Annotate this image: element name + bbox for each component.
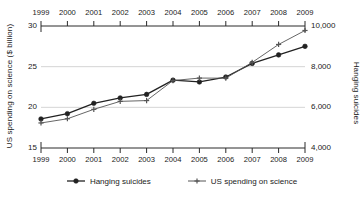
plot-area: [0, 0, 363, 197]
bottom-x-tick-label: 2004: [159, 155, 187, 164]
axis-ticks: [41, 21, 305, 153]
top-x-tick-label: 2003: [133, 8, 161, 17]
legend-item-us-spending-on-science[interactable]: US spending on science: [187, 176, 297, 186]
bottom-x-tick-label: 2008: [265, 155, 293, 164]
left-tick-label: 25: [15, 62, 37, 71]
legend-label: US spending on science: [211, 177, 297, 186]
bottom-x-tick-label: 2001: [80, 155, 108, 164]
bottom-x-tick-label: 2002: [106, 155, 134, 164]
top-x-tick-label: 2000: [53, 8, 81, 17]
series-us-spending-on-science: [38, 28, 307, 126]
bottom-x-tick-label: 2000: [53, 155, 81, 164]
top-x-tick-label: 2005: [185, 8, 213, 17]
top-x-tick-label: 2004: [159, 8, 187, 17]
left-tick-label: 15: [15, 143, 37, 152]
legend-label: Hanging suicides: [90, 177, 151, 186]
top-x-tick-label: 2002: [106, 8, 134, 17]
right-tick-label: 6,000: [311, 102, 345, 111]
top-x-tick-label: 2007: [238, 8, 266, 17]
bottom-x-tick-label: 2009: [291, 155, 319, 164]
chart-figure: US spending on science ($ billion) Hangi…: [0, 0, 363, 197]
bottom-x-tick-label: 2006: [212, 155, 240, 164]
top-x-tick-label: 2006: [212, 8, 240, 17]
right-tick-label: 10,000: [311, 21, 345, 30]
plus-marker-icon: [187, 176, 207, 186]
bottom-x-tick-label: 2007: [238, 155, 266, 164]
left-tick-label: 30: [15, 21, 37, 30]
bottom-x-tick-label: 1999: [27, 155, 55, 164]
axis-frame: [41, 26, 305, 148]
legend-item-hanging-suicides[interactable]: Hanging suicides: [66, 176, 151, 186]
top-x-tick-label: 2008: [265, 8, 293, 17]
right-tick-label: 4,000: [311, 143, 345, 152]
right-tick-label: 8,000: [311, 62, 345, 71]
bottom-x-tick-label: 2005: [185, 155, 213, 164]
left-tick-label: 20: [15, 102, 37, 111]
circle-marker-icon: [66, 176, 86, 186]
top-x-tick-label: 2001: [80, 8, 108, 17]
chart-legend: Hanging suicidesUS spending on science: [0, 176, 363, 186]
data-series-layer: [38, 28, 307, 126]
gridlines: [41, 67, 305, 108]
top-x-tick-label: 1999: [27, 8, 55, 17]
top-x-tick-label: 2009: [291, 8, 319, 17]
bottom-x-tick-label: 2003: [133, 155, 161, 164]
